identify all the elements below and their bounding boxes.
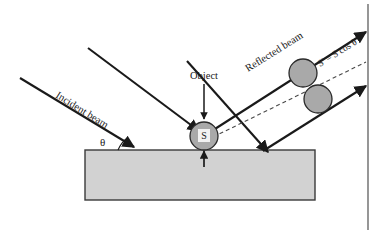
object-callout-group: Object <box>190 70 218 119</box>
incidence-angle-group: θ <box>100 136 127 150</box>
substrate-block <box>85 150 315 200</box>
diagram-canvas: Incident beam θ Reflected beam S <box>0 0 385 234</box>
optics-reflection-diagram: Incident beam θ Reflected beam S <box>0 0 385 234</box>
incident-beam-label: Incident beam <box>54 89 111 130</box>
object-sphere-group: S <box>190 122 218 150</box>
projected-area-label: S' = S cos θ <box>316 36 359 68</box>
projected-area-group <box>289 59 332 113</box>
incident-beam-group <box>20 48 199 147</box>
projected-circle-lower <box>304 85 332 113</box>
projected-circle-upper <box>289 59 317 87</box>
substrate-surface <box>85 150 315 200</box>
angle-label: θ <box>100 136 105 148</box>
object-area-label: S <box>201 130 207 141</box>
object-label: Object <box>190 70 218 81</box>
